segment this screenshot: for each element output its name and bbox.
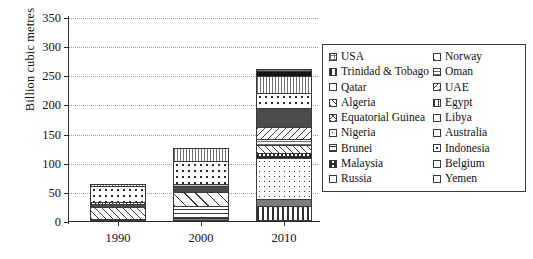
legend-item-oman[interactable]: Oman [433,64,521,79]
legend: USANorwayTrinidad & TobagoOmanQatarUAEAl… [322,44,526,192]
x-axis-line [68,221,320,222]
legend-item-australia[interactable]: Australia [433,125,521,140]
legend-item-malaysia[interactable]: Malaysia [329,156,429,171]
bar-segment[interactable] [256,206,312,221]
x-tick-label: 1990 [106,231,131,246]
legend-swatch-icon [329,160,337,168]
y-tick-mark [64,18,68,19]
x-tick-label: 2000 [189,231,214,246]
legend-item-libya[interactable]: Libya [433,110,521,125]
legend-swatch-icon [329,144,337,152]
legend-item-brunei[interactable]: Brunei [329,141,429,156]
legend-label: Australia [445,125,487,140]
x-tick-mark [284,222,285,226]
legend-swatch-icon [433,129,441,137]
legend-label: Yemen [445,171,477,186]
legend-item-indonesia[interactable]: Indonesia [433,141,521,156]
legend-label: Trinidad & Tobago [341,64,429,79]
x-tick-mark [118,222,119,226]
legend-item-belgium[interactable]: Belgium [433,156,521,171]
legend-item-algeria[interactable]: Algeria [329,95,429,110]
legend-item-nigeria[interactable]: Nigeria [329,125,429,140]
y-tick-mark [64,164,68,165]
gridline [69,47,318,48]
legend-label: Qatar [341,80,367,95]
legend-swatch-icon [329,114,337,122]
legend-swatch-icon [329,83,337,91]
legend-item-trinidad-tobago[interactable]: Trinidad & Tobago [329,64,429,79]
legend-label: Algeria [341,95,375,110]
y-tick-mark [64,47,68,48]
bar-segment[interactable] [90,219,146,221]
y-tick-label: 0 [55,216,61,229]
x-tick-label: 2010 [272,231,297,246]
legend-item-equatorial-guinea[interactable]: Equatorial Guinea [329,110,429,125]
x-tick-mark [201,222,202,226]
legend-label: Equatorial Guinea [341,110,425,125]
legend-label: Norway [445,49,482,64]
legend-swatch-icon [433,53,441,61]
legend-item-usa[interactable]: USA [329,49,429,64]
y-tick-label: 50 [49,187,62,200]
legend-swatch-icon [433,114,441,122]
legend-swatch-icon [433,144,441,152]
legend-swatch-icon [433,175,441,183]
legend-swatch-icon [433,68,441,76]
legend-item-yemen[interactable]: Yemen [433,171,521,186]
y-tick-mark [64,222,68,223]
y-tick-label: 250 [42,70,61,83]
legend-swatch-icon [433,160,441,168]
legend-grid: USANorwayTrinidad & TobagoOmanQatarUAEAl… [329,49,521,187]
legend-item-uae[interactable]: UAE [433,80,521,95]
legend-label: UAE [445,80,469,95]
legend-label: Belgium [445,156,485,171]
bar-segment[interactable] [173,161,229,184]
legend-label: Brunei [341,141,372,156]
bar-segment[interactable] [256,108,312,128]
legend-item-egypt[interactable]: Egypt [433,95,521,110]
y-tick-label: 300 [42,41,61,54]
y-tick-label: 350 [42,12,61,25]
y-tick-mark [64,76,68,77]
legend-item-norway[interactable]: Norway [433,49,521,64]
legend-swatch-icon [329,68,337,76]
chart-root: Billion cubic metres 0501001502002503003… [0,0,533,259]
legend-label: USA [341,49,364,64]
bar-segment[interactable] [256,76,312,94]
legend-label: Indonesia [445,141,490,156]
bar-segment[interactable] [256,158,312,199]
legend-label: Nigeria [341,125,375,140]
legend-label: Malaysia [341,156,383,171]
legend-swatch-icon [329,129,337,137]
bar-segment[interactable] [173,148,229,163]
legend-swatch-icon [329,175,337,183]
legend-label: Russia [341,171,372,186]
y-tick-label: 200 [42,99,61,112]
y-tick-mark [64,193,68,194]
bar-2010[interactable] [256,70,312,221]
bar-1990[interactable] [90,185,146,221]
plot-area: 050100150200250300350 199020002010 [68,18,318,222]
gridline [69,18,318,19]
y-tick-mark [64,135,68,136]
bar-2000[interactable] [173,149,229,221]
legend-swatch-icon [329,53,337,61]
legend-swatch-icon [433,83,441,91]
legend-swatch-icon [433,99,441,107]
y-tick-mark [64,105,68,106]
y-tick-label: 100 [42,157,61,170]
legend-label: Egypt [445,95,472,110]
legend-label: Oman [445,64,473,79]
legend-item-russia[interactable]: Russia [329,171,429,186]
bar-segment[interactable] [173,218,229,221]
y-axis-title: Billion cubic metres [23,0,38,150]
y-tick-label: 150 [42,128,61,141]
bar-segment[interactable] [90,186,146,203]
legend-swatch-icon [329,99,337,107]
legend-label: Libya [445,110,472,125]
legend-item-qatar[interactable]: Qatar [329,80,429,95]
bar-segment[interactable] [173,192,229,208]
bar-segment[interactable] [256,93,312,109]
